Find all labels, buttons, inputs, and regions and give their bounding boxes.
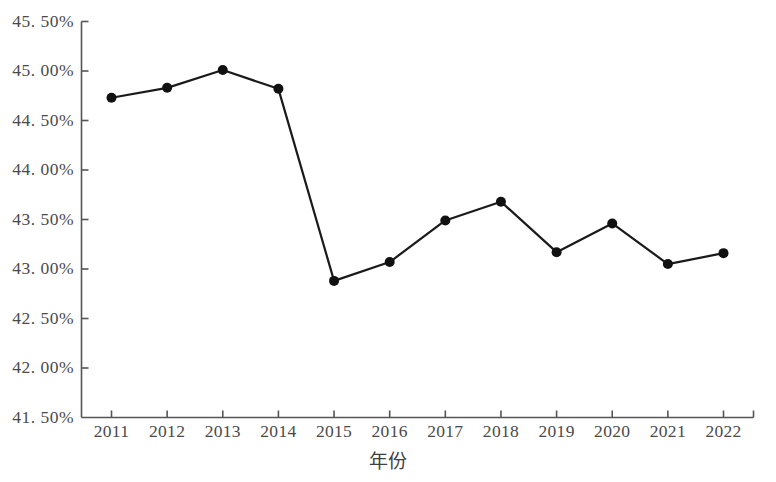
x-tick-label: 2018 xyxy=(483,423,519,441)
x-tick-label: 2012 xyxy=(149,423,185,441)
x-tick-label: 2017 xyxy=(427,423,463,441)
x-tick-label: 2013 xyxy=(205,423,241,441)
x-axis-tick-labels: 2011201220132014201520162017201820192020… xyxy=(0,0,776,482)
x-axis-title: 年份 xyxy=(0,452,776,471)
x-tick-label: 2011 xyxy=(94,423,130,441)
x-tick-label: 2015 xyxy=(316,423,352,441)
line-chart: 45. 50%45. 00%44. 50%44. 00%43. 50%43. 0… xyxy=(0,0,776,482)
x-tick-label: 2021 xyxy=(650,423,686,441)
x-tick-label: 2019 xyxy=(538,423,574,441)
x-tick-label: 2016 xyxy=(372,423,408,441)
x-tick-label: 2020 xyxy=(594,423,630,441)
x-tick-label: 2014 xyxy=(260,423,296,441)
x-tick-label: 2022 xyxy=(705,423,741,441)
